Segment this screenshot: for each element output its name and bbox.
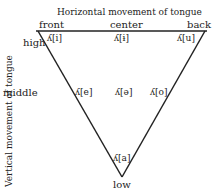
vowel-schwa: ʎ[ə] [115, 88, 132, 97]
label-middle: middle [3, 88, 38, 98]
label-back: back [187, 20, 211, 30]
vowel-o: ʎ[o] [150, 88, 168, 97]
label-front: front [39, 20, 64, 30]
label-center: center [110, 20, 143, 30]
horizontal-axis-title: Horizontal movement of tongue [57, 8, 202, 17]
vowel-u: ʎ[u] [177, 34, 195, 43]
vowel-e: ʎ[e] [75, 88, 92, 97]
vowel-i: ʎ[i] [47, 34, 62, 43]
vertical-axis-title: Vertical movement of tongue [5, 55, 14, 187]
label-low: low [113, 180, 131, 190]
vowel-a: ʎ[a] [113, 154, 130, 163]
left-edge [38, 31, 122, 177]
right-edge [122, 31, 205, 177]
label-high: high [23, 38, 45, 48]
vowel-barred-i: ʎ[ɨ] [114, 34, 129, 43]
